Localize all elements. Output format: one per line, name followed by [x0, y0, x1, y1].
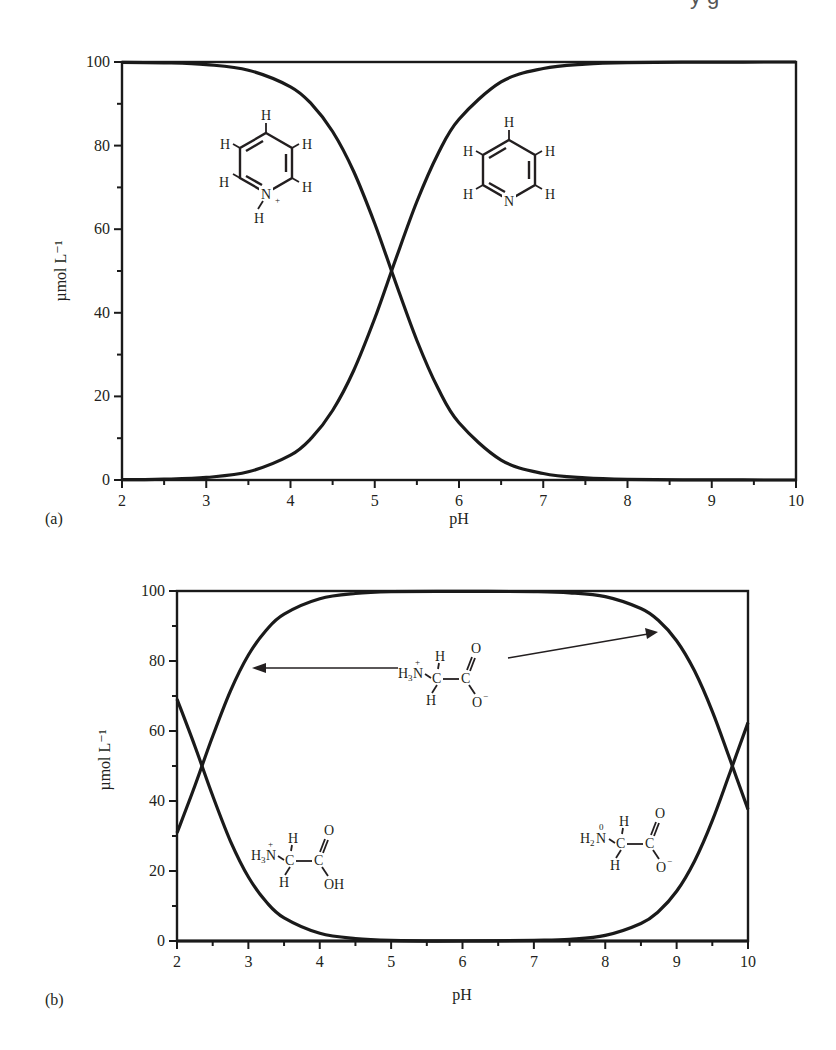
c-atom: C	[645, 836, 654, 851]
o-atom: O	[471, 641, 481, 656]
chart-b-y-tick-label: 60	[149, 722, 165, 739]
chart-a-plot-frame	[122, 62, 796, 480]
chart-b-x-tick-label: 7	[530, 953, 538, 970]
n-atom: N	[596, 831, 606, 846]
chart-a-x-tick-label: 6	[455, 492, 463, 509]
n-atom: N	[266, 848, 276, 863]
h-atom: H	[219, 175, 229, 190]
chart-b-y-tick-label: 80	[149, 652, 165, 669]
glycine-cation-structure: H 3 N + C H H C O OH	[251, 823, 344, 892]
header-fragment: y g	[690, 0, 719, 9]
chart-b-y-tick-label: 0	[157, 932, 165, 949]
chart-a-axes: 2345678910020406080100	[86, 53, 804, 509]
h-atom: H	[261, 108, 271, 123]
chart-b-series-line-3	[177, 723, 748, 941]
charge: +	[415, 657, 420, 667]
chart-b-y-axis-title: µmol L⁻¹	[96, 729, 114, 790]
pyridinium-ring	[240, 133, 292, 193]
chart-b-x-tick-label: 4	[316, 953, 324, 970]
h-atom: H	[463, 187, 473, 202]
chart-a-x-tick-label: 5	[371, 492, 379, 509]
h-atom: H	[435, 649, 445, 664]
chart-a-y-tick-label: 40	[94, 304, 110, 321]
chart-a-x-tick-label: 10	[788, 492, 804, 509]
charge: −	[667, 856, 672, 866]
c-atom: C	[285, 853, 294, 868]
chart-b-curves	[177, 591, 748, 941]
h-atom: H	[220, 137, 230, 152]
chart-a-y-axis-title: µmol L⁻¹	[52, 240, 70, 301]
chart-b-x-tick-label: 3	[244, 953, 252, 970]
chart-a-panel-label: (a)	[45, 510, 63, 528]
charge: −	[483, 691, 488, 701]
chart-b-x-tick-label: 10	[740, 953, 756, 970]
c-atom: C	[314, 853, 323, 868]
chart-b-y-tick-label: 40	[149, 792, 165, 809]
h-atom: H	[398, 666, 408, 681]
chart-a-x-tick-label: 4	[287, 492, 295, 509]
h-atom: H	[254, 211, 264, 226]
chart-a-y-tick-label: 100	[86, 53, 110, 70]
h-atom: H	[619, 814, 629, 829]
pyridine-n-label: N	[504, 194, 514, 209]
chart-a-x-tick-label: 2	[118, 492, 126, 509]
chart-b-x-tick-label: 2	[173, 953, 181, 970]
chart-a-y-tick-label: 60	[94, 220, 110, 237]
pyridine-structure: N H H H H H	[463, 115, 555, 209]
chart-b-x-axis-title: pH	[452, 986, 472, 1004]
chart-a-x-tick-label: 7	[539, 492, 547, 509]
chart-b: 2345678910020406080100 pH µmol L⁻¹ (b) H…	[45, 582, 756, 1009]
c-atom: C	[432, 671, 441, 686]
h-atom: H	[545, 187, 555, 202]
chart-a-curves	[122, 62, 796, 480]
chart-b-x-tick-label: 8	[601, 953, 609, 970]
chart-a-x-tick-label: 9	[708, 492, 716, 509]
chart-a-y-tick-label: 0	[102, 471, 110, 488]
chart-b-axes: 2345678910020406080100	[141, 582, 756, 970]
n-atom: N	[413, 666, 423, 681]
chart-a-x-axis-title: pH	[449, 510, 469, 528]
h-atom: H	[302, 180, 312, 195]
h-atom: H	[302, 137, 312, 152]
chart-a-x-tick-label: 8	[624, 492, 632, 509]
h-atom: H	[288, 831, 298, 846]
o-atom: O	[655, 806, 665, 821]
h-atom: H	[610, 858, 620, 873]
c-atom: C	[461, 671, 470, 686]
arrow-left	[252, 663, 398, 673]
h-atom: H	[251, 848, 261, 863]
arrow-right	[508, 628, 658, 658]
chart-b-x-tick-label: 9	[673, 953, 681, 970]
charge: 0	[599, 822, 604, 832]
c-atom: C	[616, 836, 625, 851]
pyridinium-structure: N + H H H H H H	[219, 108, 312, 226]
o-atom: O	[656, 860, 666, 875]
pyridine-ring	[483, 140, 535, 200]
pyridinium-n-label: N	[261, 187, 271, 202]
h-atom: H	[504, 115, 514, 130]
figure: y g 2345678910020406080100 pH µmol L⁻¹ (…	[0, 0, 836, 1050]
chart-b-series-line-2	[177, 591, 748, 833]
chart-a-y-tick-label: 20	[94, 387, 110, 404]
h-atom: H	[545, 144, 555, 159]
chart-a-series-line-1	[122, 62, 796, 480]
h-atom: H	[426, 693, 436, 708]
chart-b-x-tick-label: 6	[459, 953, 467, 970]
o-atom: O	[472, 695, 482, 710]
h-atom: H	[580, 831, 590, 846]
h-atom: H	[279, 875, 289, 890]
chart-a-y-tick-label: 80	[94, 137, 110, 154]
chart-a: 2345678910020406080100 pH µmol L⁻¹ (a) N…	[45, 53, 804, 528]
chart-a-series-line-2	[122, 62, 796, 480]
glycine-zwitterion-structure: H 3 N + C H H C O O −	[398, 641, 488, 710]
oh-group: OH	[324, 877, 344, 892]
chart-b-panel-label: (b)	[45, 991, 64, 1009]
chart-a-x-tick-label: 3	[202, 492, 210, 509]
o-atom: O	[324, 823, 334, 838]
chart-b-x-tick-label: 5	[387, 953, 395, 970]
pyridinium-charge: +	[275, 195, 280, 205]
chart-b-y-tick-label: 100	[141, 582, 165, 599]
subscript: 2	[590, 838, 595, 848]
h-atom: H	[463, 144, 473, 159]
chart-b-y-tick-label: 20	[149, 862, 165, 879]
